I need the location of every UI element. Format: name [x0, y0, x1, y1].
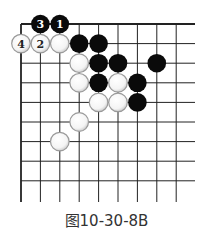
go-board: 3142: [0, 0, 213, 205]
figure-caption: 图10-30-8B: [0, 209, 213, 230]
move-number: 1: [56, 18, 64, 31]
white-stone: [51, 34, 70, 53]
white-stone: [70, 113, 89, 132]
black-stone: [148, 54, 167, 73]
black-stone: [128, 93, 147, 112]
white-stone-2: 2: [31, 34, 50, 53]
black-stone: [128, 74, 147, 93]
black-stone: [89, 34, 108, 53]
white-stone: [51, 132, 70, 151]
black-stone-3: 3: [31, 15, 50, 34]
white-stone: [89, 93, 108, 112]
white-stone: [109, 74, 128, 93]
black-stone-1: 1: [51, 15, 70, 34]
white-stone: [70, 74, 89, 93]
white-stone: [109, 93, 128, 112]
black-stone: [70, 34, 89, 53]
black-stone: [89, 54, 108, 73]
white-stone: [70, 54, 89, 73]
move-number: 2: [37, 38, 45, 51]
white-stone-4: 4: [12, 34, 31, 53]
black-stone: [89, 74, 108, 93]
move-number: 4: [17, 38, 25, 51]
black-stone: [109, 54, 128, 73]
move-number: 3: [37, 18, 45, 31]
